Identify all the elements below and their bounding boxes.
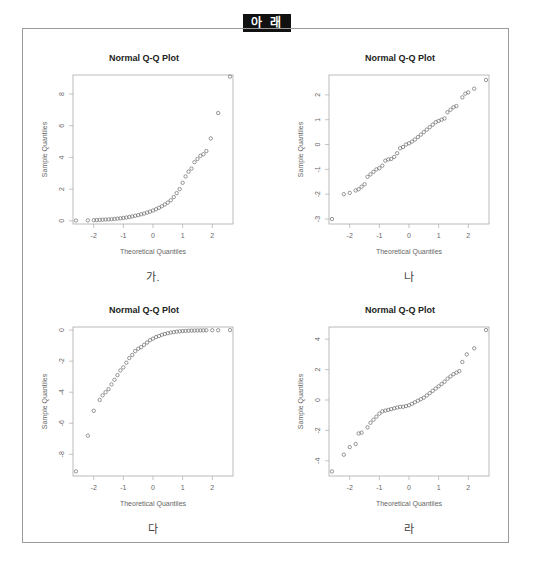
svg-text:1: 1 [181, 232, 185, 239]
svg-text:6: 6 [58, 124, 65, 128]
svg-text:2: 2 [58, 187, 65, 191]
qq-plot-da: Normal Q-Q Plot-2-1012-8-6-4-20Sample Qu… [24, 300, 264, 550]
svg-text:-6: -6 [58, 420, 65, 426]
plot-area: -2-1012-3-2-1012Sample Quantiles [280, 48, 520, 248]
panel-caption: 나 [289, 268, 529, 284]
svg-text:-1: -1 [376, 232, 382, 239]
y-axis-label: Sample Quantiles [297, 121, 305, 177]
panel-caption: 다 [33, 520, 273, 536]
svg-text:1: 1 [314, 118, 321, 122]
y-axis-label: Sample Quantiles [41, 373, 49, 429]
svg-text:2: 2 [314, 93, 321, 97]
svg-text:-2: -2 [314, 191, 321, 197]
svg-text:-8: -8 [58, 451, 65, 457]
svg-text:-2: -2 [347, 484, 353, 491]
svg-text:1: 1 [437, 232, 441, 239]
svg-text:-4: -4 [58, 389, 65, 395]
svg-text:-2: -2 [58, 358, 65, 364]
svg-text:-2: -2 [314, 427, 321, 433]
svg-text:-2: -2 [91, 484, 97, 491]
qq-plot-ra: Normal Q-Q Plot-2-1012-4-2024Sample Quan… [280, 300, 520, 550]
svg-text:0: 0 [151, 484, 155, 491]
svg-text:-2: -2 [347, 232, 353, 239]
svg-text:2: 2 [210, 484, 214, 491]
svg-text:2: 2 [466, 484, 470, 491]
x-axis-label: Theoretical Quantiles [73, 500, 233, 507]
svg-text:0: 0 [407, 484, 411, 491]
svg-text:4: 4 [58, 155, 65, 159]
svg-text:2: 2 [314, 368, 321, 372]
svg-text:4: 4 [314, 337, 321, 341]
svg-text:1: 1 [181, 484, 185, 491]
plot-area: -2-101202468Sample Quantiles [24, 48, 264, 248]
svg-text:2: 2 [210, 232, 214, 239]
svg-text:-1: -1 [314, 166, 321, 172]
svg-text:-1: -1 [120, 232, 126, 239]
panel-caption: 가. [33, 268, 273, 284]
svg-text:0: 0 [151, 232, 155, 239]
panel-caption: 라 [289, 520, 529, 536]
svg-text:0: 0 [314, 142, 321, 146]
plot-area: -2-1012-8-6-4-20Sample Quantiles [24, 300, 264, 500]
x-axis-label: Theoretical Quantiles [73, 248, 233, 255]
x-axis-label: Theoretical Quantiles [329, 248, 489, 255]
svg-text:0: 0 [58, 328, 65, 332]
y-axis-label: Sample Quantiles [297, 373, 305, 429]
svg-text:-1: -1 [376, 484, 382, 491]
y-axis-label: Sample Quantiles [41, 121, 49, 177]
svg-text:-4: -4 [314, 458, 321, 464]
svg-text:-3: -3 [314, 216, 321, 222]
x-axis-label: Theoretical Quantiles [329, 500, 489, 507]
svg-text:-1: -1 [120, 484, 126, 491]
plot-area: -2-1012-4-2024Sample Quantiles [280, 300, 520, 500]
qq-plot-na: Normal Q-Q Plot-2-1012-3-2-1012Sample Qu… [280, 48, 520, 298]
svg-text:-2: -2 [91, 232, 97, 239]
svg-text:1: 1 [437, 484, 441, 491]
svg-text:0: 0 [58, 219, 65, 223]
svg-text:0: 0 [407, 232, 411, 239]
svg-text:8: 8 [58, 92, 65, 96]
qq-plot-ga: Normal Q-Q Plot-2-101202468Sample Quanti… [24, 48, 264, 298]
svg-text:0: 0 [314, 398, 321, 402]
svg-text:2: 2 [466, 232, 470, 239]
